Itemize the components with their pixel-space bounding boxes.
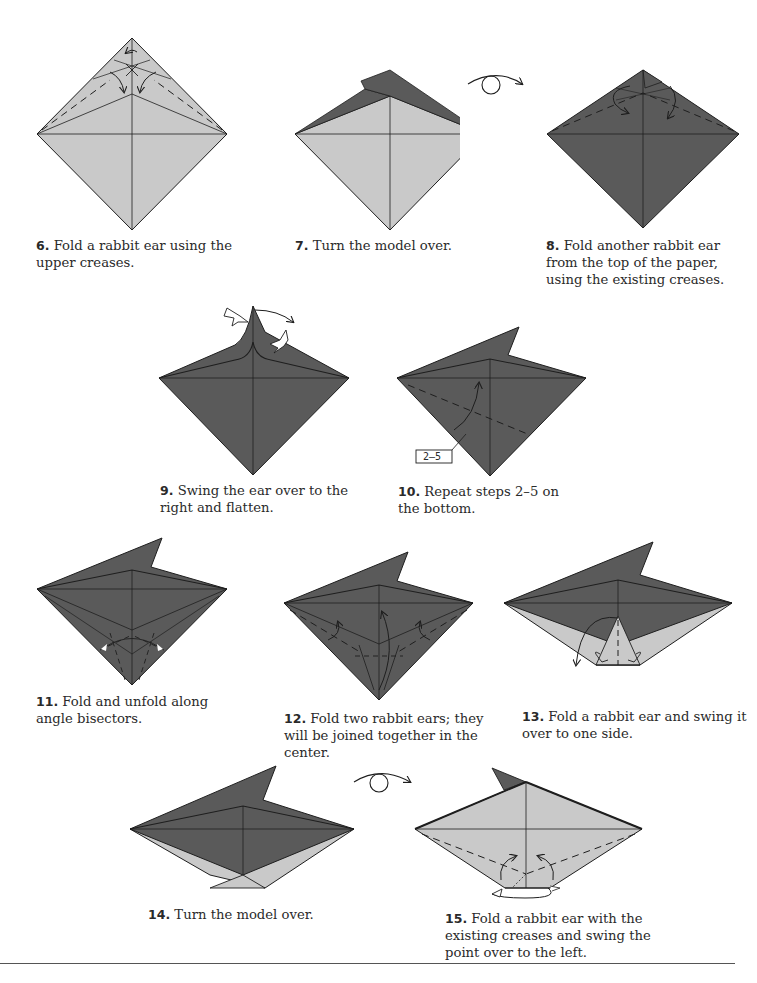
step-15: 15. Fold a rabbit ear with the existing …	[400, 760, 757, 960]
step-7-caption: 7. Turn the model over.	[295, 237, 485, 254]
step-13-diagram	[490, 520, 757, 680]
step-9-caption: 9. Swing the ear over to the right and f…	[160, 482, 360, 516]
step-number: 14.	[148, 907, 170, 922]
page-divider	[0, 963, 735, 964]
step-15-diagram	[400, 760, 757, 900]
step-number: 15.	[445, 911, 467, 926]
step-13: 13. Fold a rabbit ear and swing it over …	[490, 520, 757, 760]
step-11-diagram	[0, 530, 260, 690]
step-number: 9.	[160, 483, 173, 498]
step-7: 7. Turn the model over.	[260, 0, 460, 290]
step-text: Fold a rabbit ear using the upper crease…	[36, 238, 232, 270]
step-13-caption: 13. Fold a rabbit ear and swing it over …	[522, 708, 752, 742]
step-6-diagram	[0, 0, 260, 240]
step-reference-label: 2–5	[423, 450, 441, 463]
step-text: Repeat steps 2–5 on the bottom.	[398, 484, 559, 516]
step-7-diagram	[260, 0, 460, 240]
step-number: 6.	[36, 238, 49, 253]
step-text: Fold a rabbit ear with the existing crea…	[445, 911, 651, 960]
step-number: 11.	[36, 694, 58, 709]
step-number: 13.	[522, 709, 544, 724]
step-14-caption: 14. Turn the model over.	[148, 906, 348, 923]
step-10: 2–5 10. Repeat steps 2–5 on the bottom.	[380, 280, 620, 540]
step-number: 12.	[284, 711, 306, 726]
step-text: Fold and unfold along angle bisectors.	[36, 694, 208, 726]
step-text: Fold two rabbit ears; they will be joine…	[284, 711, 483, 760]
step-10-diagram	[380, 280, 620, 490]
step-9: 9. Swing the ear over to the right and f…	[140, 270, 380, 530]
step-9-diagram	[140, 270, 380, 480]
step-8-diagram	[530, 0, 757, 240]
step-text: Fold a rabbit ear and swing it over to o…	[522, 709, 746, 741]
step-6: 6. Fold a rabbit ear using the upper cre…	[0, 0, 260, 290]
step-12: 12. Fold two rabbit ears; they will be j…	[260, 530, 500, 770]
step-number: 8.	[546, 238, 559, 253]
step-12-caption: 12. Fold two rabbit ears; they will be j…	[284, 710, 494, 761]
step-number: 10.	[398, 484, 420, 499]
step-text: Turn the model over.	[313, 238, 452, 253]
step-10-caption: 10. Repeat steps 2–5 on the bottom.	[398, 483, 578, 517]
step-8: 8. Fold another rabbit ear from the top …	[530, 0, 757, 290]
step-11-caption: 11. Fold and unfold along angle bisector…	[36, 693, 236, 727]
step-text: Swing the ear over to the right and flat…	[160, 483, 348, 515]
turn-over-icon	[466, 70, 526, 100]
step-text: Turn the model over.	[174, 907, 313, 922]
step-11: 11. Fold and unfold along angle bisector…	[0, 530, 260, 750]
step-number: 7.	[295, 238, 308, 253]
step-12-diagram	[260, 530, 500, 705]
step-15-caption: 15. Fold a rabbit ear with the existing …	[445, 910, 655, 961]
step-6-caption: 6. Fold a rabbit ear using the upper cre…	[36, 237, 236, 271]
